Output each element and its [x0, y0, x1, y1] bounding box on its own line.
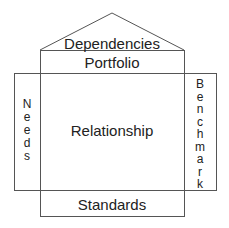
- standards-label: Standards: [78, 196, 146, 213]
- svg-text:e: e: [24, 123, 31, 137]
- svg-text:N: N: [23, 97, 32, 111]
- svg-text:k: k: [197, 177, 204, 191]
- svg-text:e: e: [24, 110, 31, 124]
- house-diagram: Dependencies Portfolio Relationship Stan…: [0, 0, 229, 228]
- roof-label: Dependencies: [64, 35, 160, 52]
- needs-label: N e e d s: [23, 97, 32, 163]
- benchmark-label: B e n c h m a r k: [195, 77, 205, 191]
- svg-text:s: s: [24, 149, 30, 163]
- relationship-label: Relationship: [71, 122, 154, 139]
- svg-text:d: d: [24, 136, 31, 150]
- portfolio-label: Portfolio: [84, 54, 139, 71]
